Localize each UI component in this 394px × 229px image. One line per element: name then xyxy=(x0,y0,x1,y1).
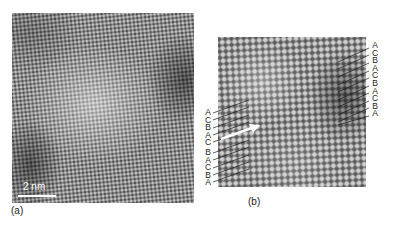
annotation-lines-overlay xyxy=(0,0,394,229)
right-leader-lines xyxy=(338,48,369,125)
left-lower-leader-lines xyxy=(213,140,249,182)
white-arrow-icon xyxy=(221,124,260,139)
